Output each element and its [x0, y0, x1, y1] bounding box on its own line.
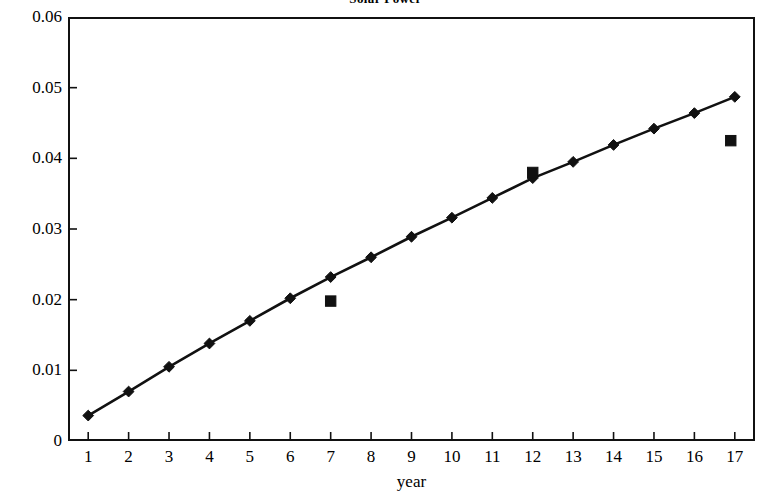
x-axis-tick-label: 6: [268, 448, 312, 466]
y-axis-tick-label: 0.02: [4, 291, 62, 308]
y-axis-tick-label: 0.03: [4, 220, 62, 237]
plot-area: [68, 17, 755, 441]
x-axis-tick-label: 14: [592, 448, 636, 466]
chart-title: Solar Power: [0, 0, 771, 4]
x-axis-tick-label: 12: [511, 448, 555, 466]
x-axis-tick-label: 3: [147, 448, 191, 466]
x-axis-tick-label: 2: [107, 448, 151, 466]
x-axis-tick-label: 4: [187, 448, 231, 466]
y-axis-tick-labels: 00.010.020.030.040.050.06: [0, 0, 62, 504]
x-axis-tick-label: 16: [672, 448, 716, 466]
x-axis-tick-label: 13: [551, 448, 595, 466]
x-axis-tick-label: 17: [713, 448, 757, 466]
x-axis-tick-label: 5: [228, 448, 272, 466]
y-axis-tick-label: 0: [4, 432, 62, 449]
x-axis-tick-label: 1: [66, 448, 110, 466]
x-axis-tick-label: 11: [470, 448, 514, 466]
x-axis-tick-label: 8: [349, 448, 393, 466]
x-axis-tick-label: 7: [309, 448, 353, 466]
y-axis-tick-label: 0.04: [4, 149, 62, 166]
x-axis-tick-label: 10: [430, 448, 474, 466]
x-axis-tick-label: 9: [390, 448, 434, 466]
y-axis-tick-label: 0.01: [4, 361, 62, 378]
y-axis-tick-label: 0.06: [4, 8, 62, 25]
y-axis-tick-label: 0.05: [4, 79, 62, 96]
x-axis-title: year: [68, 473, 755, 491]
chart-container: Solar Power 00.010.020.030.040.050.06 12…: [0, 0, 771, 504]
x-axis-tick-label: 15: [632, 448, 676, 466]
